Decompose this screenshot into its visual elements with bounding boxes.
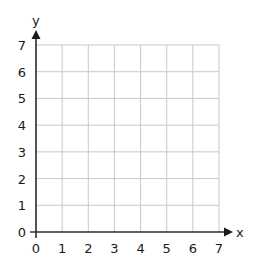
x-tick-label: 0 bbox=[32, 241, 40, 256]
x-tick-label: 3 bbox=[110, 241, 118, 256]
x-tick-label: 2 bbox=[84, 241, 92, 256]
y-tick-label: 0 bbox=[18, 225, 26, 240]
y-tick-label: 5 bbox=[18, 91, 26, 106]
y-tick-label: 3 bbox=[18, 145, 26, 160]
x-tick-labels: 01234567 bbox=[32, 241, 223, 256]
axes bbox=[30, 30, 233, 238]
x-tick-label: 7 bbox=[215, 241, 223, 256]
x-tick-label: 1 bbox=[58, 241, 66, 256]
y-tick-labels: 01234567 bbox=[18, 38, 26, 240]
y-tick-label: 2 bbox=[18, 172, 26, 187]
y-tick-label: 1 bbox=[18, 198, 26, 213]
x-tick-label: 5 bbox=[163, 241, 171, 256]
y-tick-label: 7 bbox=[18, 38, 26, 53]
y-tick-label: 4 bbox=[18, 118, 26, 133]
x-tick-label: 4 bbox=[136, 241, 144, 256]
y-axis-arrow-icon bbox=[32, 30, 41, 39]
x-axis-arrow-icon bbox=[224, 228, 233, 237]
grid-lines bbox=[36, 45, 219, 232]
x-tick-label: 6 bbox=[189, 241, 197, 256]
y-tick-label: 6 bbox=[18, 65, 26, 80]
y-axis-label: y bbox=[32, 13, 40, 28]
coordinate-plane: 01234567 01234567 x y bbox=[0, 0, 254, 267]
x-axis-label: x bbox=[236, 225, 244, 240]
